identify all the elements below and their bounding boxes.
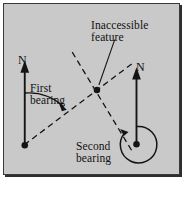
inaccessible-feature-marker xyxy=(94,87,101,94)
station-left-marker xyxy=(22,142,29,149)
first-bearing-label: First bearing xyxy=(30,83,65,107)
inaccessible-feature-label: Inaccessible feature xyxy=(91,20,148,44)
north-arrow-right xyxy=(132,67,141,144)
station-right-marker xyxy=(133,141,140,148)
figure-frame: N N First bearing Second bearing Inacces… xyxy=(3,3,180,175)
north-label-left: N xyxy=(18,54,27,66)
second-bearing-label: Second bearing xyxy=(76,141,111,165)
figure-root: N N First bearing Second bearing Inacces… xyxy=(0,0,188,197)
north-label-right: N xyxy=(136,61,145,73)
north-arrow-left xyxy=(20,60,29,145)
